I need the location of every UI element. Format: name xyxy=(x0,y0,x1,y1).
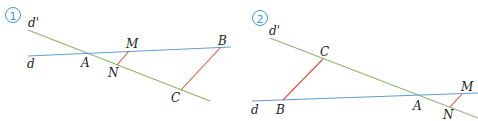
segment-cb-2 xyxy=(283,59,323,100)
label-b-2: B xyxy=(275,103,285,117)
figure-1-number: 1 xyxy=(10,10,17,23)
label-m-2: M xyxy=(460,80,474,94)
label-d-2: d xyxy=(251,103,259,117)
segment-bc-1 xyxy=(181,48,220,90)
segment-mn-1 xyxy=(117,51,129,65)
label-n-2: N xyxy=(442,108,454,120)
label-d-prime-1: d' xyxy=(28,16,39,30)
label-d-prime-2: d' xyxy=(269,24,280,38)
label-a-1: A xyxy=(80,56,90,70)
label-c-1: C xyxy=(171,91,180,105)
line-d-prime-2 xyxy=(270,38,478,118)
figure-2: 2 d' d C B A M N xyxy=(251,11,478,121)
line-d-prime-1 xyxy=(28,30,210,101)
label-c-2: C xyxy=(320,45,329,59)
diagram-canvas: 1 d' d A M N B C 2 d' d C B A M N xyxy=(0,0,478,120)
figure-2-number: 2 xyxy=(257,13,264,26)
segment-mn-2 xyxy=(450,94,462,107)
label-b-1: B xyxy=(217,34,227,48)
label-d-1: d xyxy=(27,57,35,71)
label-n-1: N xyxy=(107,66,119,80)
label-m-1: M xyxy=(125,37,139,51)
label-a-2: A xyxy=(412,99,422,113)
figure-1: 1 d' d A M N B C xyxy=(6,8,232,106)
